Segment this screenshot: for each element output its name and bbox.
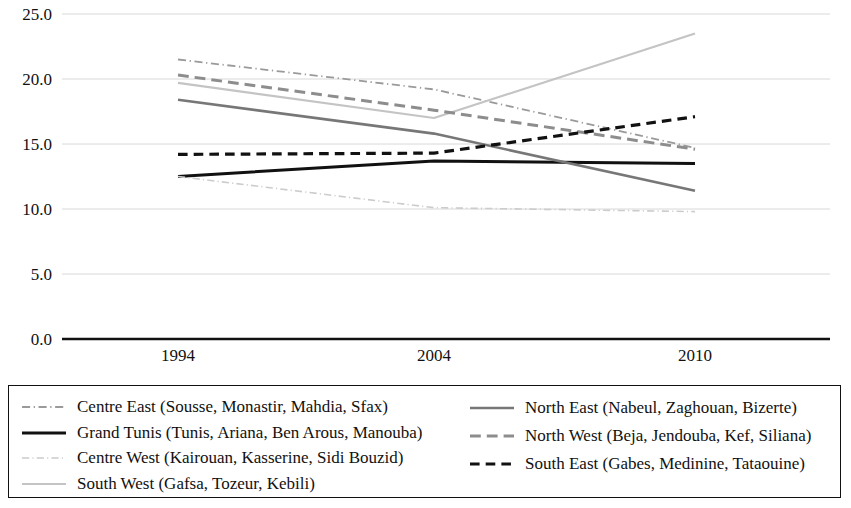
legend-swatch-south-east — [469, 457, 515, 471]
legend-item-north-east[interactable]: North East (Nabeul, Zaghouan, Bizerte) — [469, 394, 840, 422]
legend-item-north-west[interactable]: North West (Beja, Jendouba, Kef, Siliana… — [469, 422, 840, 450]
x-axis-tick-labels: 199420042010 — [161, 346, 712, 365]
x-tick-label: 2010 — [678, 346, 712, 365]
legend-label-north-west: North West (Beja, Jendouba, Kef, Siliana… — [525, 426, 811, 446]
series-line-north-west — [178, 75, 695, 149]
legend-label-grand-tunis: Grand Tunis (Tunis, Ariana, Ben Arous, M… — [77, 423, 423, 443]
legend-column-left: Centre East (Sousse, Monastir, Mahdia, S… — [9, 394, 461, 497]
series-line-south-west — [178, 34, 695, 119]
y-tick-label: 20.0 — [22, 70, 52, 89]
legend-label-centre-west: Centre West (Kairouan, Kasserine, Sidi B… — [77, 448, 403, 468]
legend-swatch-centre-east — [21, 400, 67, 414]
y-tick-label: 0.0 — [31, 330, 52, 349]
series-lines — [178, 34, 695, 212]
legend-swatch-grand-tunis — [21, 426, 67, 440]
y-axis-tick-labels: 0.05.010.015.020.025.0 — [22, 5, 52, 349]
x-tick-label: 2004 — [417, 346, 452, 365]
y-tick-label: 25.0 — [22, 5, 52, 24]
x-tick-label: 1994 — [161, 346, 196, 365]
legend-label-north-east: North East (Nabeul, Zaghouan, Bizerte) — [525, 398, 797, 418]
plot-area: 0.05.010.015.020.025.0 199420042010 — [0, 0, 851, 375]
series-line-north-east — [178, 100, 695, 191]
y-tick-label: 5.0 — [31, 265, 52, 284]
series-line-south-east — [178, 117, 695, 155]
legend-label-centre-east: Centre East (Sousse, Monastir, Mahdia, S… — [77, 397, 388, 417]
legend-item-south-west[interactable]: South West (Gafsa, Tozeur, Kebili) — [21, 471, 461, 497]
legend-item-centre-east[interactable]: Centre East (Sousse, Monastir, Mahdia, S… — [21, 394, 461, 420]
legend-item-grand-tunis[interactable]: Grand Tunis (Tunis, Ariana, Ben Arous, M… — [21, 420, 461, 446]
legend-label-south-east: South East (Gabes, Medinine, Tataouine) — [525, 454, 805, 474]
legend-column-right: North East (Nabeul, Zaghouan, Bizerte) N… — [461, 394, 840, 497]
line-chart-figure: 0.05.010.015.020.025.0 199420042010 Cent… — [0, 0, 851, 508]
legend-swatch-north-east — [469, 401, 515, 415]
legend-label-south-west: South West (Gafsa, Tozeur, Kebili) — [77, 474, 315, 494]
legend-swatch-north-west — [469, 429, 515, 443]
legend-item-centre-west[interactable]: Centre West (Kairouan, Kasserine, Sidi B… — [21, 446, 461, 472]
series-line-centre-west — [178, 177, 695, 212]
y-tick-label: 10.0 — [22, 200, 52, 219]
legend-swatch-centre-west — [21, 451, 67, 465]
legend-box: Centre East (Sousse, Monastir, Mahdia, S… — [8, 385, 841, 498]
legend-swatch-south-west — [21, 477, 67, 491]
y-tick-label: 15.0 — [22, 135, 52, 154]
plot-svg: 0.05.010.015.020.025.0 199420042010 — [0, 0, 851, 375]
gridlines — [62, 14, 830, 274]
legend-item-south-east[interactable]: South East (Gabes, Medinine, Tataouine) — [469, 450, 840, 478]
